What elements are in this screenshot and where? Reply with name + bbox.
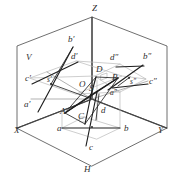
point-label-B: B [112,72,118,82]
right-angle-mark-d [101,73,107,80]
geometry-diagram-svg: X Y Z V H O S A B C D a b c d a′ b′ c′ d… [0,0,171,184]
point-label-s-double-prime: s″ [130,77,137,86]
point-label-a-double-prime: a″ [110,88,118,97]
construction-lines-light [30,61,146,139]
point-label-D: D [95,64,103,74]
point-label-b-double-prime: b″ [143,51,152,61]
v-line-s-prime-centre [51,84,92,99]
projection-h-figure [62,92,120,146]
axis-label-z: Z [92,3,98,13]
point-label-b: b [124,123,129,133]
figure-labels: X Y Z V H O S A B C D a b c d a′ b′ c′ d… [13,3,164,174]
point-label-b-prime: b′ [68,34,76,44]
point-label-A: A [59,106,66,116]
point-label-c-double-prime: c″ [149,76,157,86]
v-line-b-prime-a-prime [38,47,73,112]
correspondence-line-1 [30,76,95,78]
object-point-marker-S [90,94,92,96]
axis-label-x: X [13,125,20,135]
point-label-d-double-prime: d″ [110,52,119,62]
coordinate-axes [17,17,167,128]
point-label-c: c [89,142,93,152]
point-label-a: a [57,123,62,133]
point-label-c-prime: c′ [25,73,32,83]
plane-label-h: H [83,164,91,174]
point-label-d-prime: d′ [71,51,79,61]
point-label-C: C [78,111,85,121]
h-line-c-vertical [86,92,97,146]
point-label-S: S [89,83,94,93]
geometry-figure: X Y Z V H O S A B C D a b c d a′ b′ c′ d… [0,0,171,184]
origin-label-o: O [79,79,86,89]
point-label-d: d [101,105,106,115]
plane-label-v: V [26,52,33,62]
h-point-marker-n [91,126,93,128]
point-label-s-prime: s′ [47,75,52,84]
point-label-a-prime: a′ [24,99,32,109]
